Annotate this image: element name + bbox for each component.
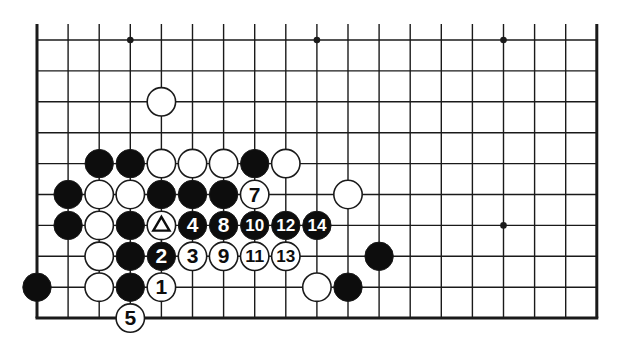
black-stone xyxy=(23,273,51,301)
white-stone-move-1: 1 xyxy=(147,273,175,301)
star-point-icon xyxy=(127,37,134,44)
black-stone-icon xyxy=(54,180,82,208)
move-number-label: 9 xyxy=(218,244,230,267)
white-stone xyxy=(85,273,113,301)
star-point-icon xyxy=(314,37,321,44)
move-number-label: 5 xyxy=(124,306,136,329)
move-number-label: 8 xyxy=(218,213,230,236)
black-stone xyxy=(178,180,206,208)
black-stone xyxy=(241,149,269,177)
white-stone-icon xyxy=(85,211,113,239)
go-board: 748101214239111315 xyxy=(0,0,627,353)
black-stone-move-2: 2 xyxy=(147,242,175,270)
white-stone-icon xyxy=(209,149,237,177)
move-number-label: 12 xyxy=(276,216,295,235)
white-stone-icon xyxy=(334,180,362,208)
move-number-label: 2 xyxy=(156,244,168,267)
black-stone-icon xyxy=(365,242,393,270)
black-stone-icon xyxy=(147,180,175,208)
black-stone-icon xyxy=(209,180,237,208)
move-number-label: 3 xyxy=(187,244,199,267)
white-stone-icon xyxy=(178,149,206,177)
black-stone-icon xyxy=(116,149,144,177)
black-stone-icon xyxy=(85,149,113,177)
move-number-label: 10 xyxy=(245,216,264,235)
black-stone xyxy=(209,180,237,208)
star-point-icon xyxy=(500,222,507,229)
white-stone xyxy=(116,180,144,208)
black-stone xyxy=(54,211,82,239)
black-stone-move-8: 8 xyxy=(209,211,237,239)
white-stone xyxy=(334,180,362,208)
black-stone xyxy=(147,180,175,208)
black-stone-icon xyxy=(23,273,51,301)
black-stone-icon xyxy=(54,211,82,239)
white-stone-move-9: 9 xyxy=(209,242,237,270)
white-stone-icon xyxy=(303,273,331,301)
move-number-label: 1 xyxy=(156,275,168,298)
white-stone-move-13: 13 xyxy=(272,242,300,270)
white-stone-icon xyxy=(147,88,175,116)
black-stone-move-4: 4 xyxy=(178,211,206,239)
white-stone-icon xyxy=(116,180,144,208)
black-stone-icon xyxy=(116,273,144,301)
white-stone-icon xyxy=(85,180,113,208)
white-stone xyxy=(147,149,175,177)
white-stone-icon xyxy=(85,242,113,270)
black-stone-move-14: 14 xyxy=(303,211,331,239)
move-number-label: 4 xyxy=(187,213,199,236)
white-stone-move-3: 3 xyxy=(178,242,206,270)
black-stone xyxy=(116,149,144,177)
white-stone xyxy=(209,149,237,177)
black-stone xyxy=(116,242,144,270)
white-stone xyxy=(147,211,175,239)
black-stone xyxy=(54,180,82,208)
move-number-label: 7 xyxy=(249,183,261,206)
black-stone-icon xyxy=(334,273,362,301)
stones: 748101214239111315 xyxy=(23,88,394,333)
white-stone xyxy=(147,88,175,116)
move-number-label: 14 xyxy=(307,216,327,235)
white-stone xyxy=(85,180,113,208)
white-stone xyxy=(85,242,113,270)
white-stone xyxy=(303,273,331,301)
white-stone xyxy=(272,149,300,177)
white-stone-icon xyxy=(85,273,113,301)
black-stone xyxy=(334,273,362,301)
black-stone-move-10: 10 xyxy=(241,211,269,239)
black-stone-icon xyxy=(178,180,206,208)
white-stone-icon xyxy=(272,149,300,177)
star-point-icon xyxy=(500,37,507,44)
black-stone xyxy=(85,149,113,177)
white-stone-move-7: 7 xyxy=(241,180,269,208)
white-stone xyxy=(178,149,206,177)
move-number-label: 13 xyxy=(276,247,295,266)
black-stone-icon xyxy=(116,242,144,270)
black-stone xyxy=(116,211,144,239)
black-stone xyxy=(116,273,144,301)
black-stone xyxy=(365,242,393,270)
move-number-label: 11 xyxy=(245,247,264,266)
white-stone-move-11: 11 xyxy=(241,242,269,270)
white-stone-icon xyxy=(147,149,175,177)
black-stone-move-12: 12 xyxy=(272,211,300,239)
black-stone-icon xyxy=(116,211,144,239)
black-stone-icon xyxy=(241,149,269,177)
white-stone xyxy=(85,211,113,239)
white-stone-move-5: 5 xyxy=(116,304,144,332)
